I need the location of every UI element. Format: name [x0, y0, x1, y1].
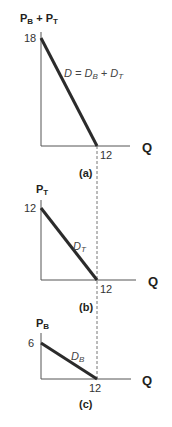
curve-label-b: DT [73, 240, 87, 254]
y-axis-label-b: PT [36, 183, 48, 197]
y-intercept-c: 6 [28, 337, 34, 349]
curve-label-a: D = DB + DT [64, 67, 124, 81]
panel-a: PB + PT 18 D = DB + DT Q 12 (a) [20, 12, 152, 179]
x-axis-label-a: Q [142, 140, 152, 155]
panel-label-b: (b) [79, 301, 93, 313]
y-axis-label-a: PB + PT [20, 12, 58, 26]
panel-b: PT 12 DT Q 12 (b) [24, 183, 158, 313]
panel-label-c: (c) [79, 398, 93, 410]
x-axis-label-b: Q [148, 274, 158, 289]
demand-curve-c [41, 343, 97, 379]
demand-diagram: PB + PT 18 D = DB + DT Q 12 (a) PT 12 DT… [0, 0, 172, 427]
x-intercept-b: 12 [100, 283, 112, 295]
demand-curve-b [41, 208, 97, 280]
panel-label-a: (a) [79, 167, 93, 179]
demand-curve-a [41, 38, 97, 146]
x-intercept-a: 12 [100, 149, 112, 161]
x-axis-label-c: Q [142, 373, 152, 388]
x-intercept-c: 12 [89, 382, 101, 394]
panel-c: PB 6 DB Q 12 (c) [28, 317, 152, 410]
curve-label-c: DB [71, 350, 85, 364]
y-intercept-b: 12 [24, 202, 36, 214]
y-axis-label-c: PB [36, 317, 49, 331]
y-intercept-a: 18 [24, 32, 36, 44]
